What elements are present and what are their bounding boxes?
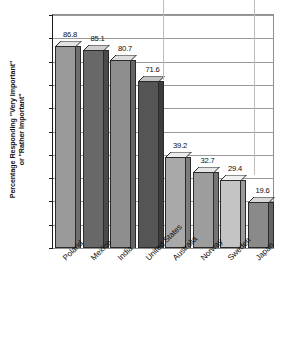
bar-value-label: 85.1 bbox=[91, 34, 105, 43]
bar-front-face bbox=[55, 46, 76, 248]
scan-artifact-line-2 bbox=[254, 0, 255, 175]
x-axis-labels: PolandMexicoIndiaUnited StatesAustraliaN… bbox=[52, 252, 274, 337]
bar bbox=[83, 44, 104, 248]
bar-front-face bbox=[110, 60, 131, 248]
bar-value-label: 71.6 bbox=[146, 65, 160, 74]
y-axis-title: Percentage Responding "Very Important" o… bbox=[9, 14, 28, 244]
bar bbox=[55, 40, 76, 248]
y-axis-title-line-1: Percentage Responding "Very Important" bbox=[9, 14, 18, 244]
bar bbox=[138, 75, 159, 248]
bar-value-label: 19.6 bbox=[256, 186, 270, 195]
bar-front-face bbox=[83, 50, 104, 248]
bar-value-label: 80.7 bbox=[118, 44, 132, 53]
bar-front-face bbox=[138, 81, 159, 248]
bar-value-label: 29.4 bbox=[228, 164, 242, 173]
bar-value-label: 32.7 bbox=[201, 156, 215, 165]
bar-value-label: 39.2 bbox=[173, 141, 187, 150]
y-axis-title-line-2: or "Rather Important" bbox=[18, 14, 27, 244]
scan-artifact-line-1 bbox=[163, 0, 164, 80]
bar bbox=[110, 54, 131, 248]
bar-front-face bbox=[220, 180, 241, 249]
bar bbox=[193, 166, 214, 248]
bar-value-label: 86.8 bbox=[63, 30, 77, 39]
bar bbox=[220, 174, 241, 249]
bar-chart: Percentage Responding "Very Important" o… bbox=[0, 0, 292, 337]
y-axis-tick-mark bbox=[49, 248, 53, 249]
